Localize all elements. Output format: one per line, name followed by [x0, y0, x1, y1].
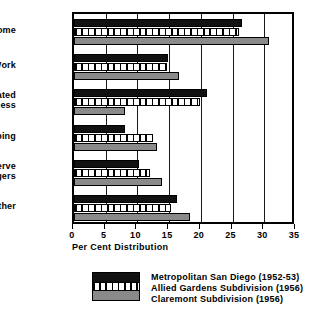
- x-tick-25: [231, 224, 232, 229]
- x-tick-label-20: 20: [194, 230, 205, 240]
- x-tick-label-10: 10: [130, 230, 141, 240]
- legend-swatch-gray: [93, 291, 139, 300]
- x-tick-35: [294, 224, 295, 229]
- bar: [74, 54, 168, 62]
- category-label-line: Business: [0, 100, 16, 110]
- category-label-line: Passengers: [0, 171, 16, 181]
- category-label-line: Related: [0, 90, 16, 100]
- legend-label-claremont: Claremont Subdivision (1956): [151, 294, 303, 305]
- gridline-25: [233, 14, 234, 222]
- legend-swatch-hatched: [93, 282, 139, 291]
- x-tick-label-35: 35: [289, 230, 300, 240]
- category-label-line: Other: [0, 201, 16, 211]
- x-tick-30: [262, 224, 263, 229]
- plot-area: [72, 12, 294, 224]
- x-tick-10: [135, 224, 136, 229]
- bar: [74, 134, 153, 142]
- category-label-line: Shopping: [0, 131, 16, 141]
- bar: [74, 213, 190, 221]
- chart-container: HomeWorkRelatedBusinessShoppingServePass…: [0, 0, 312, 317]
- bar: [74, 178, 162, 186]
- x-axis-title: Per Cent Distribution: [72, 242, 168, 252]
- category-label-other: Other: [0, 201, 16, 211]
- legend-swatches: [92, 272, 140, 301]
- gridline-20: [201, 14, 202, 222]
- bar: [74, 204, 171, 212]
- bar: [74, 169, 150, 177]
- gridline-30: [264, 14, 265, 222]
- legend-swatch-black: [93, 273, 139, 282]
- gridline-15: [169, 14, 170, 222]
- x-tick-label-0: 0: [69, 230, 74, 240]
- x-tick-0: [72, 224, 73, 229]
- x-tick-20: [199, 224, 200, 229]
- category-label-shopping: Shopping: [0, 131, 16, 141]
- chart-legend: Metropolitan San Diego (1952-53) Allied …: [92, 272, 303, 305]
- x-tick-label-30: 30: [257, 230, 268, 240]
- bar: [74, 28, 239, 36]
- gridline-5: [106, 14, 107, 222]
- category-label-serve-passengers: ServePassengers: [0, 161, 16, 181]
- legend-label-allied-gardens: Allied Gardens Subdivision (1956): [151, 283, 303, 294]
- bar: [74, 160, 139, 168]
- x-tick-15: [167, 224, 168, 229]
- bar: [74, 125, 125, 133]
- x-tick-label-5: 5: [101, 230, 106, 240]
- legend-labels: Metropolitan San Diego (1952-53) Allied …: [151, 272, 303, 305]
- bar: [74, 107, 125, 115]
- x-tick-5: [104, 224, 105, 229]
- category-label-line: Work: [0, 60, 16, 70]
- gridline-10: [137, 14, 138, 222]
- category-label-line: Home: [0, 25, 16, 35]
- bar: [74, 98, 200, 106]
- bar: [74, 89, 207, 97]
- bar: [74, 19, 242, 27]
- category-label-work: Work: [0, 60, 16, 70]
- x-tick-label-25: 25: [225, 230, 236, 240]
- bar: [74, 143, 157, 151]
- bar: [74, 37, 269, 45]
- bar: [74, 63, 167, 71]
- category-label-home: Home: [0, 25, 16, 35]
- category-label-related-business: RelatedBusiness: [0, 90, 16, 110]
- legend-label-metropolitan-san-diego: Metropolitan San Diego (1952-53): [151, 272, 303, 283]
- bar: [74, 195, 177, 203]
- bar: [74, 72, 179, 80]
- x-tick-label-15: 15: [162, 230, 173, 240]
- category-label-line: Serve: [0, 161, 16, 171]
